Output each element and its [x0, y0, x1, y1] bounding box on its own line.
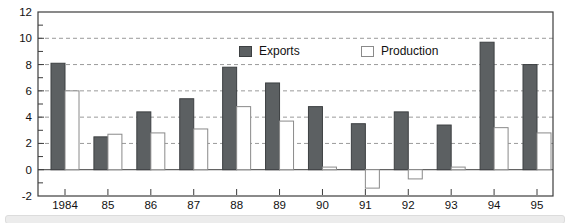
bar-production-93 — [451, 167, 465, 170]
x-axis-label-1984: 1984 — [52, 199, 78, 211]
y-axis-label-6: 6 — [26, 85, 32, 97]
bottom-separator-band — [5, 215, 565, 223]
bar-exports-87 — [180, 99, 194, 170]
bar-exports-86 — [137, 112, 151, 170]
y-axis-label--2: -2 — [22, 190, 32, 202]
bar-chart-figure: 121086420-219848586878889909192939495 Ex… — [0, 0, 569, 223]
bar-production-92 — [408, 170, 422, 179]
exports-legend-label: Exports — [259, 44, 300, 58]
x-axis-label-88: 88 — [230, 199, 243, 211]
x-axis-label-90: 90 — [316, 199, 329, 211]
production-legend-label: Production — [381, 44, 438, 58]
y-axis-label-2: 2 — [26, 137, 32, 149]
legend-item-production: Production — [361, 44, 438, 58]
x-axis-label-92: 92 — [402, 199, 415, 211]
bar-chart-plot: 121086420-219848586878889909192939495 — [0, 0, 569, 223]
exports-swatch-icon — [239, 46, 252, 57]
x-axis-label-93: 93 — [445, 199, 458, 211]
bar-exports-1984 — [51, 63, 65, 169]
x-axis-label-89: 89 — [273, 199, 286, 211]
bar-production-85 — [108, 134, 122, 169]
legend-item-exports: Exports — [239, 44, 300, 58]
bar-exports-93 — [437, 125, 451, 170]
y-axis-label-12: 12 — [19, 6, 32, 18]
y-axis-label-0: 0 — [26, 164, 32, 176]
y-axis-label-8: 8 — [26, 59, 32, 71]
bar-production-87 — [194, 129, 208, 170]
bar-exports-94 — [480, 42, 494, 169]
bar-production-88 — [237, 107, 251, 170]
x-axis-label-95: 95 — [531, 199, 544, 211]
bar-production-89 — [280, 121, 294, 170]
bar-exports-88 — [223, 67, 237, 170]
bar-exports-89 — [266, 83, 280, 170]
x-axis-label-86: 86 — [144, 199, 157, 211]
bar-exports-90 — [308, 107, 322, 170]
y-axis-label-10: 10 — [19, 32, 32, 44]
bar-production-90 — [322, 167, 336, 170]
bar-production-1984 — [65, 91, 79, 170]
x-axis-label-85: 85 — [102, 199, 115, 211]
bar-production-95 — [537, 133, 551, 170]
y-axis-label-4: 4 — [26, 111, 33, 123]
bar-exports-95 — [523, 65, 537, 170]
x-axis-label-91: 91 — [359, 199, 372, 211]
bar-production-86 — [151, 133, 165, 170]
bar-production-91 — [365, 170, 379, 188]
bar-exports-91 — [351, 124, 365, 170]
bar-exports-92 — [394, 112, 408, 170]
bar-exports-85 — [94, 137, 108, 170]
x-axis-label-94: 94 — [488, 199, 501, 211]
x-axis-label-87: 87 — [187, 199, 200, 211]
bar-production-94 — [494, 128, 508, 170]
production-swatch-icon — [361, 46, 374, 57]
